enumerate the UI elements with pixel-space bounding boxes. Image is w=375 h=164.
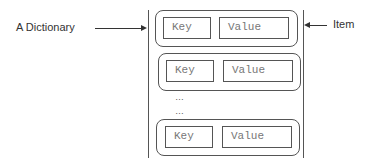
item-arrow-line [309, 25, 327, 26]
ellipsis: … [175, 92, 183, 102]
dictionary-arrow-line [95, 28, 142, 29]
value-cell: Value [223, 60, 293, 82]
dictionary-left-border [148, 10, 149, 158]
dictionary-right-border [303, 10, 304, 158]
ellipsis: … [175, 106, 183, 116]
value-cell: Value [222, 126, 292, 148]
dictionary-item: Key Value [158, 53, 301, 91]
dictionary-label: A Dictionary [16, 21, 75, 33]
key-cell: Key [165, 126, 213, 148]
dictionary-arrow-head-icon [141, 25, 147, 31]
dictionary-item: Key Value [155, 10, 298, 47]
key-cell: Key [166, 60, 214, 82]
dictionary-item: Key Value [156, 119, 300, 156]
value-cell: Value [219, 17, 289, 39]
item-label: Item [333, 18, 354, 30]
key-cell: Key [163, 17, 211, 39]
